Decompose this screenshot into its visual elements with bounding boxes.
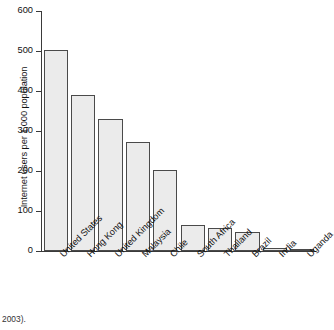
y-axis-tick-label: 400 [17, 85, 33, 95]
y-axis-tick-label: 100 [17, 205, 33, 215]
y-axis-tick-label: 200 [17, 165, 33, 175]
y-axis-tick: 600 [36, 11, 41, 12]
bar [44, 50, 68, 251]
y-axis-tick-label: 500 [17, 45, 33, 55]
y-axis-tick: 500 [36, 51, 41, 52]
y-axis-tick: 300 [36, 131, 41, 132]
y-axis-tick-label: 600 [17, 5, 33, 15]
y-axis-tick-label: 300 [17, 125, 33, 135]
x-axis-category-labels: United StatesHong KongUnited KingdomMala… [41, 252, 322, 310]
bar-series [42, 11, 316, 251]
figure-caption: 2003). [2, 314, 26, 324]
plot-area: 6005004003002001000 [41, 11, 316, 251]
y-axis-tick: 400 [36, 91, 41, 92]
y-axis-tick: 100 [36, 211, 41, 212]
y-axis-tick-label: 0 [28, 245, 33, 255]
y-axis-tick: 200 [36, 171, 41, 172]
